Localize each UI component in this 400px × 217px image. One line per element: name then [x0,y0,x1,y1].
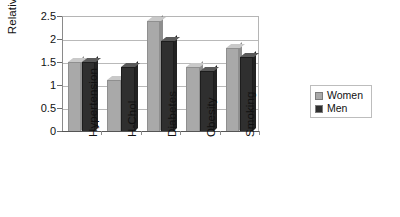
x-axis-tick-mark [220,131,221,135]
bar-front-face [226,48,240,131]
legend-item-women: Women [315,89,367,102]
legend-swatch-women [315,92,323,100]
x-axis-tick-mark [180,131,181,135]
bar-front-face [147,21,161,131]
bar-diabetes-women [147,21,161,131]
legend-swatch-men [315,105,323,113]
y-axis-tick-mark [57,85,62,86]
bar-front-face [186,67,200,131]
bar-hypertension-women [68,62,82,131]
legend: Women Men [310,85,372,118]
y-axis-title: Relative Risk [6,0,26,50]
bar-smoking-women [226,48,240,131]
x-axis-tick-mark [259,131,260,135]
x-axis-tick-mark [101,131,102,135]
bar-front-face [107,80,121,131]
y-axis-tick-mark [57,131,62,132]
bar-h-chol-women [107,80,121,131]
y-axis-tick-label: 2 [30,34,56,45]
y-axis-tick-mark [57,39,62,40]
y-axis-tick-mark [57,62,62,63]
y-axis-tick-mark [57,108,62,109]
y-axis-tick-label: 1 [30,80,56,91]
x-axis-label-smoking: Smoking [244,92,256,137]
y-axis-tick-label: 1.5 [30,57,56,68]
y-axis-tick-label: 0.5 [30,103,56,114]
x-axis-label-hypertension: Hypertension [87,68,99,137]
legend-item-men: Men [315,102,367,115]
x-axis-tick-mark [141,131,142,135]
relative-risk-bar-chart: Relative Risk 00.511.522.5 HypertensionH… [0,0,400,217]
x-axis-label-obesity: Obesity [205,97,217,137]
legend-label-women: Women [327,90,363,101]
x-axis-label-h-chol: H-Chol [126,101,138,137]
y-axis-tick-mark [57,16,62,17]
x-axis-label-diabetes: Diabetes [166,91,178,137]
bar-obesity-women [186,67,200,131]
y-axis-tick-label: 2.5 [30,11,56,22]
y-axis-tick-label: 0 [30,126,56,137]
bar-front-face [68,62,82,131]
legend-label-men: Men [327,103,347,114]
